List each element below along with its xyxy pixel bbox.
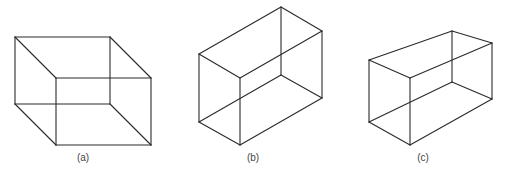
panel-label-c: (c) [417,152,429,163]
box-b-edge [281,75,322,98]
box-b-edge [199,122,240,145]
panel-label-b: (b) [247,152,259,163]
box-a-edge [110,104,151,145]
box-c-edge [452,82,492,99]
box-b-edge [199,7,281,54]
panel-label-a: (a) [77,152,89,163]
box-b-edge [281,7,322,31]
box-c-edge [369,60,410,78]
box-c-edge [410,43,492,78]
box-a-edge [110,37,151,78]
wireframe-boxes-figure [0,0,506,173]
box-c [369,31,492,145]
box-a-edge [15,104,56,145]
box-c-edge [369,31,452,60]
box-a-edge [15,37,56,78]
box-b-edge [199,54,240,78]
box-b [199,7,322,145]
box-b-edge [240,98,322,145]
box-c-edge [369,122,410,145]
box-c-edge [410,99,492,145]
box-c-edge [452,31,492,43]
box-a [15,37,151,145]
